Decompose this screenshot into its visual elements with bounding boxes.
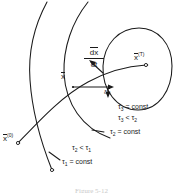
inequality-tau2-lt-tau1: τ2 < τ1: [72, 144, 91, 153]
leader-line-tau1: [49, 152, 60, 160]
perturbation-label: δx: [104, 88, 110, 95]
inequality-tau3-lt-tau2: τ3 < τ2: [118, 114, 137, 123]
isochrone-curve-tau3: [103, 28, 172, 110]
terminal-state-marker: [144, 63, 147, 66]
initial-state-base: x: [3, 134, 7, 143]
terminal-state-base: x: [134, 53, 138, 62]
tau2-relation: = const: [118, 128, 141, 135]
initial-state-label: x(0): [3, 133, 13, 143]
isochrone-label-tau3: τ3 = const: [118, 103, 148, 112]
derivative-denominator: dt: [82, 60, 106, 69]
isochrone-curve-tau1: [30, 2, 52, 170]
derivative-label: dx dt: [82, 47, 106, 69]
isochrone-label-tau1: τ1 = const: [62, 158, 92, 167]
ineq2-op: <: [126, 114, 130, 121]
initial-state-superscript: (0): [7, 132, 13, 138]
figure-caption: Figure 5-12: [0, 187, 183, 193]
ineq1-op: <: [80, 144, 84, 151]
initial-state-marker: [16, 141, 19, 144]
tau3-relation: = const: [126, 103, 149, 110]
terminal-state-label: x(T): [134, 52, 144, 62]
ineq2-left-sub: 3: [121, 117, 124, 123]
ineq1-right-sub: 1: [88, 147, 91, 153]
derivative-fraction-bar: [84, 58, 104, 59]
derivative-numerator-text: dx: [90, 47, 98, 57]
isochrone-tau1-endpoint-marker: [50, 168, 53, 171]
tau3-subscript: 3: [121, 106, 124, 112]
ineq2-right-sub: 2: [134, 117, 137, 123]
terminal-state-superscript: (T): [138, 51, 144, 57]
isochrone-label-tau2: τ2 = const: [110, 128, 140, 137]
current-state-label: x: [61, 72, 65, 81]
tau1-subscript: 1: [65, 161, 68, 167]
tau2-subscript: 2: [113, 131, 116, 137]
current-state-base: x: [61, 72, 65, 81]
ineq1-left-sub: 2: [75, 147, 78, 153]
figure-container: x(0) x x(T) dx dt δx τ3 = const τ3 < τ2 …: [0, 0, 183, 193]
derivative-numerator: dx: [82, 47, 106, 57]
leader-line-tau2: [92, 130, 104, 132]
tau1-relation: = const: [70, 158, 93, 165]
perturbation-base: x: [107, 88, 110, 95]
